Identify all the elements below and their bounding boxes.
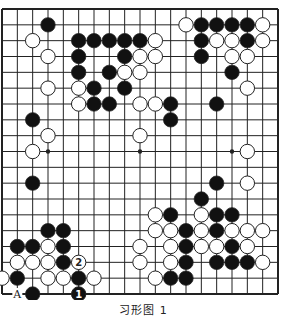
white-stone — [71, 81, 85, 95]
black-stone — [194, 33, 208, 47]
white-stone — [194, 208, 208, 222]
black-stone — [117, 49, 131, 63]
white-stone — [225, 49, 239, 63]
white-stone — [148, 271, 162, 285]
white-stone — [41, 81, 55, 95]
black-stone — [71, 49, 85, 63]
black-stone — [87, 33, 101, 47]
white-stone — [148, 97, 162, 111]
white-stone — [148, 33, 162, 47]
white-stone — [255, 223, 269, 237]
white-stone — [255, 18, 269, 32]
white-stone — [133, 128, 147, 142]
white-stone — [25, 33, 39, 47]
white-stone — [240, 144, 254, 158]
white-stone — [25, 144, 39, 158]
black-stone — [209, 208, 223, 222]
white-stone — [240, 223, 254, 237]
white-stone — [240, 239, 254, 253]
black-stone — [102, 65, 116, 79]
white-stone — [194, 239, 208, 253]
black-stone — [179, 239, 193, 253]
white-stone — [133, 65, 147, 79]
black-stone — [56, 223, 70, 237]
black-stone — [25, 287, 39, 300]
white-stone — [148, 223, 162, 237]
white-stone — [10, 255, 24, 269]
white-stone — [133, 255, 147, 269]
white-stone — [41, 49, 55, 63]
black-stone — [133, 33, 147, 47]
black-stone — [194, 49, 208, 63]
black-stone — [117, 33, 131, 47]
white-stone — [255, 33, 269, 47]
black-stone — [225, 239, 239, 253]
white-stone — [71, 97, 85, 111]
white-stone — [225, 33, 239, 47]
white-stone — [148, 208, 162, 222]
black-stone — [25, 113, 39, 127]
black-stone — [71, 65, 85, 79]
diagram-caption: 习形图 1 — [0, 301, 287, 317]
white-stone — [179, 18, 193, 32]
black-stone — [225, 255, 239, 269]
white-stone — [25, 255, 39, 269]
white-stone — [163, 223, 177, 237]
black-stone — [102, 97, 116, 111]
white-stone — [163, 239, 177, 253]
white-stone — [240, 176, 254, 190]
white-stone — [41, 239, 55, 253]
black-stone — [240, 33, 254, 47]
white-stone — [87, 271, 101, 285]
white-stone — [194, 223, 208, 237]
black-stone — [41, 223, 55, 237]
black-stone — [209, 18, 223, 32]
black-stone — [194, 18, 208, 32]
black-stone — [240, 255, 254, 269]
white-stone — [163, 255, 177, 269]
move-number: 2 — [75, 257, 82, 268]
black-stone — [240, 18, 254, 32]
black-stone — [209, 223, 223, 237]
star-point — [230, 149, 234, 153]
black-stone — [225, 208, 239, 222]
white-stone — [41, 271, 55, 285]
white-stone — [209, 33, 223, 47]
black-stone — [10, 239, 24, 253]
white-stone — [41, 255, 55, 269]
star-point — [138, 149, 142, 153]
black-stone — [163, 113, 177, 127]
black-stone — [194, 192, 208, 206]
black-stone — [71, 271, 85, 285]
move-number: 1 — [75, 289, 82, 300]
black-stone — [179, 255, 193, 269]
black-stone — [163, 97, 177, 111]
white-stone — [255, 255, 269, 269]
black-stone — [209, 97, 223, 111]
point-label: A — [12, 288, 22, 300]
white-stone — [56, 271, 70, 285]
star-point — [46, 149, 50, 153]
black-stone — [225, 18, 239, 32]
go-board-grid: 12A — [0, 0, 287, 300]
white-stone — [0, 271, 9, 285]
black-stone — [56, 255, 70, 269]
white-stone — [240, 81, 254, 95]
black-stone — [10, 271, 24, 285]
white-stone — [133, 49, 147, 63]
white-stone — [240, 49, 254, 63]
black-stone — [87, 81, 101, 95]
black-stone — [117, 81, 131, 95]
black-stone — [209, 176, 223, 190]
black-stone — [56, 239, 70, 253]
black-stone — [209, 255, 223, 269]
black-stone — [71, 33, 85, 47]
go-board: 12A — [0, 0, 287, 300]
white-stone — [148, 49, 162, 63]
white-stone — [133, 97, 147, 111]
black-stone — [163, 208, 177, 222]
black-stone — [87, 97, 101, 111]
black-stone — [102, 33, 116, 47]
black-stone — [179, 271, 193, 285]
black-stone — [25, 239, 39, 253]
